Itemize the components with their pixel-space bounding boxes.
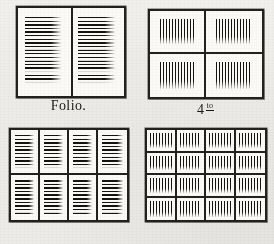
sextodecimo-cell — [177, 175, 207, 198]
quarto-page-type — [216, 62, 252, 89]
sextodecimo-page-type — [209, 156, 231, 171]
type-ragged — [15, 135, 34, 168]
quarto-caption-number: 4 — [197, 102, 204, 117]
diagram-sheet: Folio. 4to — [0, 0, 274, 244]
octavo-grid — [11, 130, 127, 220]
octavo-cell — [98, 175, 127, 220]
folio-frame — [16, 6, 126, 98]
type-ragged — [180, 178, 202, 193]
type-ragged — [239, 156, 263, 171]
octavo-cell — [40, 130, 69, 175]
octavo-cell — [69, 130, 98, 175]
folio-caption-text: Folio. — [51, 98, 86, 113]
type-ragged — [44, 135, 63, 168]
quarto-frame — [148, 9, 264, 99]
folio-spine — [71, 8, 73, 96]
type-ragged — [73, 135, 92, 168]
sextodecimo-page-type — [209, 178, 231, 193]
sextodecimo-page-type — [150, 178, 172, 193]
panel-quarto: 4to — [137, 0, 274, 122]
octavo-page-type — [73, 180, 92, 215]
sextodecimo-cell — [206, 198, 236, 221]
sextodecimo-page-type — [180, 178, 202, 193]
sextodecimo-cell — [236, 175, 266, 198]
sextodecimo-page-type — [209, 201, 231, 218]
sextodecimo-cell — [177, 130, 207, 153]
sextodecimo-cell — [206, 130, 236, 153]
octavo-cell — [69, 175, 98, 220]
sextodecimo-cell — [147, 153, 177, 176]
type-ragged — [180, 201, 202, 218]
quarto-page-type — [160, 62, 194, 89]
octavo-cell — [40, 175, 69, 220]
type-ragged — [150, 178, 172, 193]
type-ragged — [44, 180, 63, 215]
sextodecimo-frame — [145, 128, 267, 222]
folio-page-2-ragged — [78, 17, 115, 83]
quarto-cell — [150, 54, 206, 97]
folio-page-1-ragged — [25, 17, 61, 83]
type-ragged — [102, 180, 123, 215]
type-ragged — [216, 62, 252, 89]
type-ragged — [216, 19, 252, 44]
type-ragged — [209, 156, 231, 171]
sextodecimo-page-type — [150, 133, 172, 148]
type-ragged — [150, 201, 172, 218]
type-ragged — [160, 62, 194, 89]
panel-sextodecimo: 16mo — [137, 122, 274, 244]
octavo-cell — [98, 130, 127, 175]
type-ragged — [209, 201, 231, 218]
quarto-page-type — [160, 19, 194, 44]
type-ragged — [73, 180, 92, 215]
folio-page-1 — [25, 17, 61, 83]
quarto-grid — [150, 11, 262, 97]
sextodecimo-page-type — [150, 156, 172, 171]
sextodecimo-cell — [236, 130, 266, 153]
sextodecimo-cell — [236, 153, 266, 176]
type-ragged — [160, 19, 194, 44]
octavo-page-type — [15, 180, 34, 215]
sextodecimo-page-type — [239, 133, 263, 148]
type-ragged — [102, 135, 123, 168]
type-ragged — [209, 178, 231, 193]
sextodecimo-page-type — [180, 201, 202, 218]
octavo-page-type — [102, 135, 123, 168]
sextodecimo-page-type — [239, 156, 263, 171]
sextodecimo-cell — [147, 175, 177, 198]
sextodecimo-page-type — [180, 156, 202, 171]
folio-page-2 — [78, 17, 115, 83]
octavo-cell — [11, 175, 40, 220]
type-ragged — [150, 156, 172, 171]
panel-octavo: 8vo — [0, 122, 137, 244]
sextodecimo-page-type — [150, 201, 172, 218]
sextodecimo-grid — [147, 130, 265, 220]
octavo-page-type — [44, 135, 63, 168]
quarto-cell — [206, 11, 262, 54]
sextodecimo-page-type — [180, 133, 202, 148]
type-ragged — [239, 201, 263, 218]
type-ragged — [15, 180, 34, 215]
type-ragged — [150, 133, 172, 148]
quarto-caption-superscript: to — [206, 101, 214, 111]
type-ragged — [239, 133, 263, 148]
quarto-cell — [150, 11, 206, 54]
sextodecimo-page-type — [209, 133, 231, 148]
sextodecimo-cell — [206, 153, 236, 176]
quarto-page-type — [216, 19, 252, 44]
octavo-page-type — [44, 180, 63, 215]
sextodecimo-page-type — [239, 201, 263, 218]
quarto-cell — [206, 54, 262, 97]
octavo-page-type — [102, 180, 123, 215]
octavo-cell — [11, 130, 40, 175]
type-ragged — [180, 133, 202, 148]
quarto-caption: 4to — [137, 100, 274, 118]
sextodecimo-cell — [177, 198, 207, 221]
panel-folio: Folio. — [0, 0, 137, 122]
type-ragged — [239, 178, 263, 193]
octavo-page-type — [73, 135, 92, 168]
type-ragged — [209, 133, 231, 148]
sextodecimo-page-type — [239, 178, 263, 193]
octavo-page-type — [15, 135, 34, 168]
sextodecimo-cell — [236, 198, 266, 221]
folio-caption: Folio. — [0, 98, 137, 114]
